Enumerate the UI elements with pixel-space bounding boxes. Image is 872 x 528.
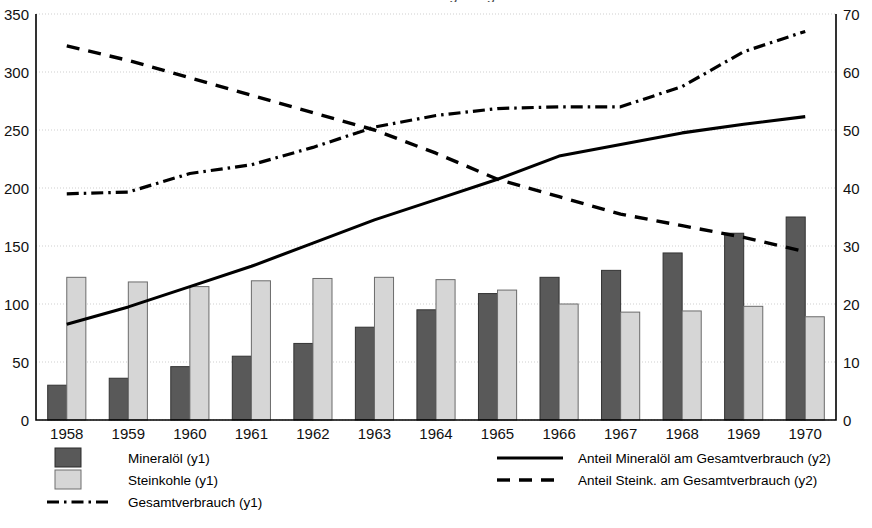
left-tick-0: 0 [21, 412, 29, 429]
line-dashed [67, 46, 805, 252]
legend-item-mineraloel[interactable]: Mineralöl (y1) [55, 448, 210, 467]
legend-label: Anteil Mineralöl am Gesamtverbrauch (y2) [578, 451, 831, 466]
right-tick-0: 0 [843, 412, 851, 429]
x-tick-1965: 1965 [481, 425, 514, 442]
legend-label: Mineralöl (y1) [128, 451, 210, 466]
x-tick-1958: 1958 [50, 425, 83, 442]
bar-steinkohle-1961 [251, 281, 270, 420]
bar-steinkohle-1966 [559, 304, 578, 420]
x-tick-1970: 1970 [789, 425, 822, 442]
legend-item-anteil-steinkohle[interactable]: Anteil Steink. am Gesamtverbrauch (y2) [497, 473, 817, 488]
left-tick-150: 150 [4, 238, 29, 255]
legend-item-steinkohle[interactable]: Steinkohle (y1) [55, 470, 218, 489]
bar-mineraloel-1960 [171, 367, 190, 420]
x-tick-1960: 1960 [173, 425, 206, 442]
legend-swatch-icon [55, 448, 81, 467]
left-tick-50: 50 [12, 354, 29, 371]
bar-steinkohle-1967 [621, 312, 640, 420]
bar-mineraloel-1959 [109, 378, 128, 420]
x-tick-1959: 1959 [112, 425, 145, 442]
left-axis-ticklabels: 050100150200250300350 [4, 6, 29, 429]
left-tick-350: 350 [4, 6, 29, 23]
bar-steinkohle-1969 [744, 306, 763, 420]
x-tick-1962: 1962 [296, 425, 329, 442]
x-tick-1961: 1961 [235, 425, 268, 442]
right-tick-30: 30 [843, 238, 860, 255]
legend-item-anteil-mineraloel[interactable]: Anteil Mineralöl am Gesamtverbrauch (y2) [497, 451, 831, 466]
left-tick-250: 250 [4, 122, 29, 139]
chart-legend: Mineralöl (y1)Steinkohle (y1)Gesamtverbr… [47, 448, 831, 510]
right-tick-20: 20 [843, 296, 860, 313]
right-tick-50: 50 [843, 122, 860, 139]
left-tick-300: 300 [4, 64, 29, 81]
left-tick-200: 200 [4, 180, 29, 197]
right-tick-70: 70 [843, 6, 860, 23]
line-dashdot [67, 31, 805, 193]
bar-mineraloel-1968 [663, 253, 682, 420]
bars-layer [48, 217, 825, 420]
bar-steinkohle-1964 [436, 280, 455, 420]
bar-steinkohle-1970 [805, 317, 824, 420]
bar-steinkohle-1965 [498, 290, 517, 420]
legend-label: Gesamtverbrauch (y1) [128, 495, 262, 510]
bar-mineraloel-1965 [478, 294, 497, 420]
legend-label: Anteil Steink. am Gesamtverbrauch (y2) [578, 473, 817, 488]
bar-mineraloel-1963 [355, 327, 374, 420]
x-axis-ticklabels: 1958195919601961196219631964196519661967… [50, 425, 822, 442]
bar-mineraloel-1961 [232, 356, 251, 420]
chart-title: und der Anteile der Energieträger 1958-1… [0, 0, 872, 2]
legend-label: Steinkohle (y1) [128, 473, 218, 488]
legend-item-gesamtverbrauch[interactable]: Gesamtverbrauch (y1) [47, 495, 262, 510]
bar-steinkohle-1962 [313, 278, 332, 420]
energy-consumption-chart: 050100150200250300350 010203040506070 19… [0, 0, 872, 528]
bar-steinkohle-1958 [67, 277, 86, 420]
chart-container: und der Anteile der Energieträger 1958-1… [0, 0, 872, 528]
bar-mineraloel-1958 [48, 385, 67, 420]
bar-steinkohle-1963 [374, 277, 393, 420]
right-tick-60: 60 [843, 64, 860, 81]
x-tick-1969: 1969 [727, 425, 760, 442]
bar-mineraloel-1964 [417, 310, 436, 420]
left-tick-100: 100 [4, 296, 29, 313]
bar-steinkohle-1968 [682, 311, 701, 420]
bar-steinkohle-1960 [190, 287, 209, 420]
x-tick-1968: 1968 [665, 425, 698, 442]
right-tick-40: 40 [843, 180, 860, 197]
bar-mineraloel-1962 [294, 343, 313, 420]
right-axis-ticklabels: 010203040506070 [843, 6, 860, 429]
x-tick-1967: 1967 [604, 425, 637, 442]
x-tick-1964: 1964 [419, 425, 452, 442]
x-tick-1963: 1963 [358, 425, 391, 442]
legend-swatch-icon [55, 470, 81, 489]
bar-mineraloel-1967 [602, 270, 621, 420]
x-tick-1966: 1966 [542, 425, 575, 442]
bar-mineraloel-1969 [725, 233, 744, 420]
bar-mineraloel-1966 [540, 277, 559, 420]
right-tick-10: 10 [843, 354, 860, 371]
